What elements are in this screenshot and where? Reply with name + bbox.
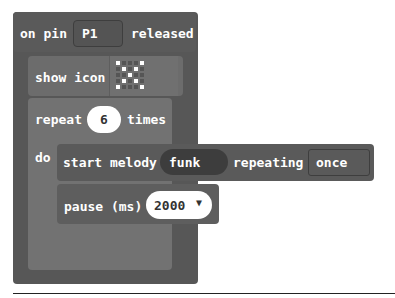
event-suffix-label: released — [131, 26, 194, 41]
x-pattern-icon[interactable] — [116, 61, 146, 91]
led-cell[interactable] — [134, 85, 138, 89]
led-cell[interactable] — [116, 67, 120, 71]
led-cell[interactable] — [134, 61, 138, 65]
led-cell[interactable] — [116, 79, 120, 83]
led-cell[interactable] — [128, 61, 132, 65]
repeat-count-input[interactable]: 6 — [87, 106, 121, 133]
led-cell[interactable] — [122, 79, 126, 83]
divider-line — [13, 293, 395, 294]
led-cell[interactable] — [116, 85, 120, 89]
repeat-mode-value[interactable]: once — [316, 155, 347, 170]
led-cell[interactable] — [116, 61, 120, 65]
pin-dropdown[interactable] — [73, 20, 123, 47]
show-icon-label: show icon — [35, 70, 105, 85]
led-cell[interactable] — [140, 67, 144, 71]
repeat-prefix-label: repeat — [35, 112, 82, 127]
event-prefix-label: on pin — [20, 26, 67, 41]
led-cell[interactable] — [140, 85, 144, 89]
repeating-label: repeating — [233, 155, 303, 170]
repeat-count-value[interactable]: 6 — [100, 112, 108, 127]
led-cell[interactable] — [140, 79, 144, 83]
led-cell[interactable] — [128, 85, 132, 89]
caret-down-icon[interactable]: ▼ — [196, 197, 202, 208]
pin-value[interactable]: P1 — [82, 26, 98, 41]
led-cell[interactable] — [128, 67, 132, 71]
pause-value[interactable]: 2000 — [154, 198, 185, 213]
pause-label: pause (ms) — [64, 199, 142, 214]
led-cell[interactable] — [134, 79, 138, 83]
pause-value-dropdown[interactable]: 2000 ▼ — [146, 191, 212, 219]
melody-label: start melody — [63, 155, 157, 170]
led-cell[interactable] — [128, 73, 132, 77]
repeat-suffix-label: times — [127, 112, 166, 127]
led-cell[interactable] — [140, 73, 144, 77]
led-cell[interactable] — [122, 73, 126, 77]
led-cell[interactable] — [134, 73, 138, 77]
led-cell[interactable] — [140, 61, 144, 65]
led-cell[interactable] — [122, 61, 126, 65]
led-cell[interactable] — [116, 73, 120, 77]
led-cell[interactable] — [128, 79, 132, 83]
led-cell[interactable] — [122, 85, 126, 89]
melody-value[interactable]: funk — [169, 155, 200, 170]
led-cell[interactable] — [134, 67, 138, 71]
led-cell[interactable] — [122, 67, 126, 71]
do-label: do — [35, 150, 51, 165]
